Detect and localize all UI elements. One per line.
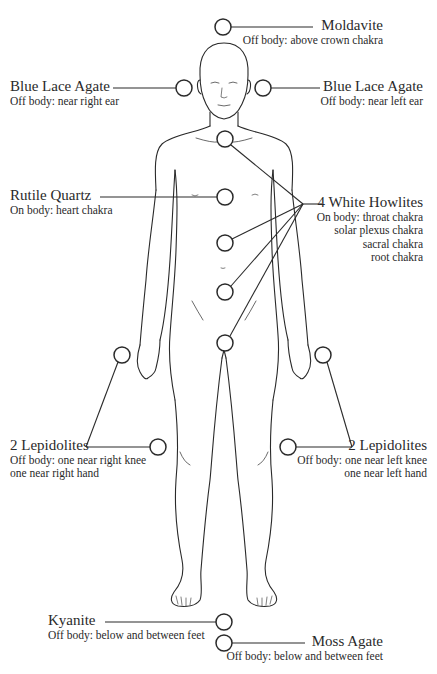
- label-moss-agate: Moss Agate Off body: below and between f…: [226, 633, 383, 663]
- placement-note: Off body: one near left knee: [297, 454, 427, 467]
- root-chakra-marker: [217, 335, 233, 351]
- label-blue-lace-left-ear: Blue Lace Agate Off body: near left ear: [320, 78, 423, 108]
- stone-name: 4 White Howlites: [317, 194, 423, 211]
- label-white-howlites: 4 White Howlites On body: throat chakra …: [317, 194, 423, 264]
- kyanite-marker: [216, 614, 232, 630]
- placement-note: one near right hand: [10, 467, 146, 480]
- label-blue-lace-right-ear: Blue Lace Agate Off body: near right ear: [10, 78, 119, 108]
- placement-note: On body: heart chakra: [10, 204, 113, 217]
- throat-chakra-marker: [217, 131, 233, 147]
- placement-note: root chakra: [317, 251, 423, 264]
- moldavite-stone-marker: [215, 19, 231, 35]
- placement-note: Off body: near left ear: [320, 95, 423, 108]
- placement-note: Off body: one near right knee: [10, 454, 146, 467]
- label-moldavite: Moldavite Off body: above crown chakra: [243, 17, 383, 47]
- stone-name: Rutile Quartz: [10, 187, 113, 204]
- stone-name: Moldavite: [243, 17, 383, 34]
- stone-name: Kyanite: [48, 612, 205, 629]
- stone-name: Blue Lace Agate: [320, 78, 423, 95]
- heart-chakra-marker: [217, 189, 233, 205]
- body-map-diagram: Moldavite Off body: above crown chakra B…: [0, 0, 437, 674]
- blue-lace-left-ear-marker: [255, 80, 271, 96]
- label-lepidolites-right: 2 Lepidolites Off body: one near right k…: [10, 437, 146, 481]
- left-hand-marker: [315, 347, 331, 363]
- placement-note: solar plexus chakra: [317, 224, 423, 237]
- placement-note: On body: throat chakra: [317, 211, 423, 224]
- sacral-chakra-marker: [217, 284, 233, 300]
- placement-note: Off body: below and between feet: [48, 629, 205, 642]
- stone-name: 2 Lepidolites: [10, 437, 146, 454]
- connector-lines: [86, 27, 352, 643]
- placement-note: Off body: below and between feet: [226, 650, 383, 663]
- placement-note: Off body: above crown chakra: [243, 34, 383, 47]
- right-knee-marker: [150, 439, 166, 455]
- stone-name: Moss Agate: [226, 633, 383, 650]
- stone-name: Blue Lace Agate: [10, 78, 119, 95]
- left-knee-marker: [280, 439, 296, 455]
- label-lepidolites-left: 2 Lepidolites Off body: one near left kn…: [297, 437, 427, 481]
- solar-plexus-marker: [217, 235, 233, 251]
- head-outline: [200, 43, 248, 119]
- placement-note: one near left hand: [297, 467, 427, 480]
- placement-note: Off body: near right ear: [10, 95, 119, 108]
- blue-lace-right-ear-marker: [176, 80, 192, 96]
- stone-name: 2 Lepidolites: [297, 437, 427, 454]
- label-kyanite: Kyanite Off body: below and between feet: [48, 612, 205, 642]
- label-rutile-quartz: Rutile Quartz On body: heart chakra: [10, 187, 113, 217]
- placement-note: sacral chakra: [317, 238, 423, 251]
- right-hand-marker: [114, 347, 130, 363]
